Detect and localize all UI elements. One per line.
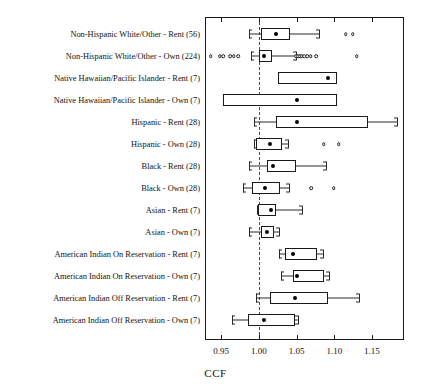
whisker-cap-arm bbox=[251, 60, 254, 61]
upper-whisker-cap bbox=[298, 316, 299, 325]
upper-whisker bbox=[290, 34, 319, 35]
whisker-cap-arm bbox=[249, 170, 252, 171]
upper-whisker bbox=[280, 188, 289, 189]
whisker-cap-arm bbox=[232, 316, 235, 317]
whisker-cap-arm bbox=[356, 302, 359, 303]
lower-whisker bbox=[251, 56, 259, 57]
category-label: Non-Hispanic White/Other - Rent (56) bbox=[0, 30, 200, 39]
median-marker bbox=[274, 32, 278, 36]
outlier-point bbox=[309, 186, 313, 190]
lower-whisker bbox=[232, 320, 249, 321]
category-label: Asian - Own (7) bbox=[0, 228, 200, 237]
whisker-cap-arm bbox=[326, 280, 329, 281]
category-label: Black - Own (28) bbox=[0, 184, 200, 193]
box-iqr bbox=[285, 248, 317, 260]
reference-line-1.00 bbox=[259, 17, 260, 340]
whisker-cap-arm bbox=[299, 206, 302, 207]
upper-whisker-cap bbox=[359, 294, 360, 303]
whisker-cap-arm bbox=[316, 38, 319, 39]
category-label: Hispanic - Rent (28) bbox=[0, 118, 200, 127]
outlier-point bbox=[355, 54, 359, 58]
upper-whisker bbox=[296, 166, 326, 167]
whisker-cap-arm bbox=[394, 126, 397, 127]
box-iqr bbox=[223, 94, 337, 106]
box-iqr bbox=[258, 204, 276, 216]
upper-whisker-cap bbox=[319, 30, 320, 39]
whisker-cap-arm bbox=[276, 228, 279, 229]
x-tick-mark bbox=[297, 335, 298, 340]
x-tick-mark bbox=[259, 17, 260, 22]
boxplot-figure: Non-Hispanic White/Other - Rent (56)Non-… bbox=[0, 0, 431, 387]
x-tick-label: 0.95 bbox=[213, 346, 229, 356]
whisker-cap-arm bbox=[249, 236, 252, 237]
whisker-cap-arm bbox=[394, 118, 397, 119]
whisker-cap-arm bbox=[256, 302, 259, 303]
whisker-cap-arm bbox=[320, 258, 323, 259]
whisker-cap-arm bbox=[356, 294, 359, 295]
whisker-cap-arm bbox=[285, 148, 288, 149]
outlier-point bbox=[209, 54, 213, 58]
x-tick-mark bbox=[372, 17, 373, 22]
whisker-cap-arm bbox=[326, 272, 329, 273]
whisker-cap-arm bbox=[254, 118, 257, 119]
lower-whisker bbox=[249, 166, 267, 167]
whisker-cap-arm bbox=[243, 192, 246, 193]
whisker-cap-arm bbox=[285, 140, 288, 141]
outlier-point bbox=[232, 54, 236, 58]
box-iqr bbox=[248, 314, 294, 326]
category-label: Non-Hispanic White/Other - Own (224) bbox=[0, 52, 200, 61]
whisker-cap-arm bbox=[320, 250, 323, 251]
x-tick-mark bbox=[334, 335, 335, 340]
box-iqr bbox=[270, 292, 328, 304]
whisker-cap-arm bbox=[295, 316, 298, 317]
category-label: American Indian Off Reservation - Own (7… bbox=[0, 316, 200, 325]
median-marker bbox=[295, 120, 299, 124]
lower-whisker bbox=[281, 276, 293, 277]
x-tick-mark bbox=[372, 335, 373, 340]
category-label: Native Hawaiian/Pacific Islander - Rent … bbox=[0, 74, 200, 83]
whisker-cap-arm bbox=[256, 294, 259, 295]
category-label: Asian - Rent (7) bbox=[0, 206, 200, 215]
whisker-cap-arm bbox=[299, 214, 302, 215]
upper-whisker bbox=[276, 210, 302, 211]
upper-whisker-cap bbox=[326, 162, 327, 171]
x-tick-label: 1.15 bbox=[364, 346, 380, 356]
whisker-cap-arm bbox=[281, 280, 284, 281]
median-marker bbox=[293, 296, 297, 300]
x-tick-label: 1.05 bbox=[289, 346, 305, 356]
outlier-point bbox=[236, 54, 240, 58]
x-tick-mark bbox=[334, 17, 335, 22]
upper-whisker bbox=[328, 298, 359, 299]
box-iqr bbox=[276, 116, 368, 128]
outlier-point bbox=[351, 32, 355, 36]
median-marker bbox=[269, 208, 273, 212]
lower-whisker bbox=[254, 122, 276, 123]
median-marker bbox=[295, 98, 299, 102]
whisker-cap-arm bbox=[279, 250, 282, 251]
median-marker bbox=[291, 252, 295, 256]
upper-whisker-cap bbox=[302, 206, 303, 215]
whisker-cap-arm bbox=[323, 170, 326, 171]
median-marker bbox=[262, 318, 266, 322]
whisker-cap-arm bbox=[293, 52, 296, 53]
upper-whisker-cap bbox=[288, 140, 289, 149]
lower-whisker bbox=[249, 34, 261, 35]
median-marker bbox=[268, 142, 272, 146]
x-tick-label: 1.00 bbox=[251, 346, 267, 356]
lower-whisker bbox=[249, 232, 261, 233]
whisker-cap-arm bbox=[249, 228, 252, 229]
whisker-cap-arm bbox=[249, 38, 252, 39]
outlier-point bbox=[337, 142, 341, 146]
category-label: Native Hawaiian/Pacific Islander - Own (… bbox=[0, 96, 200, 105]
whisker-cap-arm bbox=[249, 162, 252, 163]
x-tick-mark bbox=[259, 335, 260, 340]
upper-whisker bbox=[368, 122, 397, 123]
outlier-point bbox=[344, 32, 348, 36]
median-marker bbox=[326, 76, 330, 80]
whisker-cap-arm bbox=[276, 236, 279, 237]
upper-whisker-cap bbox=[279, 228, 280, 237]
median-marker bbox=[263, 186, 267, 190]
upper-whisker-cap bbox=[397, 118, 398, 127]
whisker-cap-arm bbox=[295, 324, 298, 325]
whisker-cap-arm bbox=[232, 324, 235, 325]
